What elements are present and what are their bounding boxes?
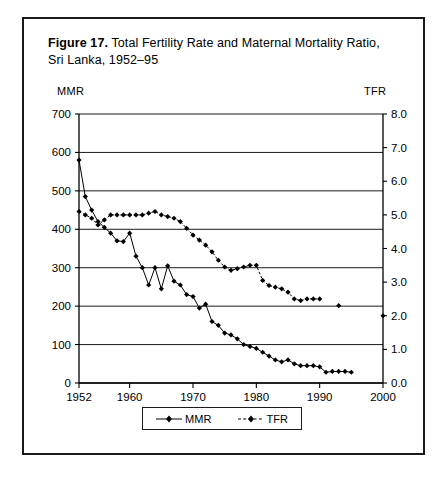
- svg-text:300: 300: [52, 262, 71, 274]
- legend-label-tfr: TFR: [267, 413, 288, 425]
- svg-text:2000: 2000: [370, 391, 396, 403]
- svg-text:1990: 1990: [307, 391, 333, 403]
- svg-text:7.0: 7.0: [391, 142, 407, 154]
- legend-label-mmr: MMR: [185, 413, 211, 425]
- svg-text:0.0: 0.0: [391, 377, 407, 389]
- svg-text:6.0: 6.0: [391, 175, 407, 187]
- svg-text:8.0: 8.0: [391, 108, 407, 120]
- svg-text:1960: 1960: [117, 391, 143, 403]
- legend-line-dashed-icon: [238, 414, 264, 424]
- svg-text:5.0: 5.0: [391, 209, 407, 221]
- chart-legend: MMR TFR: [142, 407, 302, 430]
- legend-line-solid-icon: [156, 414, 182, 424]
- svg-text:700: 700: [52, 108, 71, 120]
- chart-canvas: 01002003004005006007000.01.02.03.04.05.0…: [24, 19, 427, 457]
- svg-text:1970: 1970: [180, 391, 206, 403]
- svg-text:400: 400: [52, 223, 71, 235]
- svg-text:3.0: 3.0: [391, 276, 407, 288]
- svg-text:500: 500: [52, 185, 71, 197]
- legend-item-mmr: MMR: [156, 413, 211, 425]
- svg-text:600: 600: [52, 146, 71, 158]
- figure-frame: Figure 17. Total Fertility Rate and Mate…: [22, 17, 425, 455]
- svg-text:100: 100: [52, 339, 71, 351]
- svg-text:4.0: 4.0: [391, 243, 407, 255]
- svg-text:0: 0: [65, 377, 71, 389]
- chart-plot-area: MMR TFR 01002003004005006007000.01.02.03…: [24, 19, 427, 457]
- legend-item-tfr: TFR: [238, 413, 288, 425]
- svg-text:1980: 1980: [244, 391, 270, 403]
- svg-text:200: 200: [52, 300, 71, 312]
- svg-text:2.0: 2.0: [391, 310, 407, 322]
- svg-text:1.0: 1.0: [391, 343, 407, 355]
- svg-text:1952: 1952: [66, 391, 92, 403]
